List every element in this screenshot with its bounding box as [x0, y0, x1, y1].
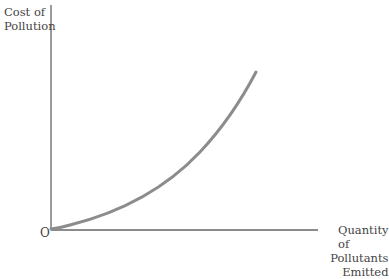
x-label-line1: Quantity of: [310, 223, 389, 251]
origin-label: O: [40, 226, 50, 240]
x-label-line2: Pollutants Emitted: [330, 251, 388, 279]
x-axis-label: Quantity of Pollutants Emitted: [310, 223, 389, 279]
y-label-line1: Cost of: [4, 5, 56, 19]
y-axis-label: Cost of Pollution: [4, 5, 56, 33]
y-label-line2: Pollution: [4, 19, 56, 33]
cost-curve: [51, 72, 256, 229]
